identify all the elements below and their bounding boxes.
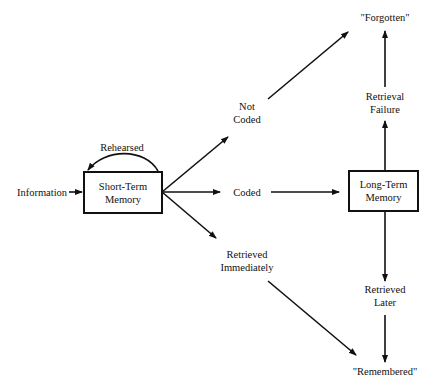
label-rehearsed: Rehearsed xyxy=(100,141,144,154)
retrieved-later-line1: Retrieved xyxy=(365,283,406,296)
node-coded: Coded xyxy=(233,186,260,199)
retrieval-failure-line1: Retrieval xyxy=(366,90,404,103)
arrow-retrieved-immediately-to-remembered xyxy=(268,281,356,355)
retrieved-immediately-line2: Immediately xyxy=(220,261,273,274)
node-remembered: "Remembered" xyxy=(353,365,418,378)
not-coded-line2: Coded xyxy=(233,113,260,126)
node-retrieval-failure: Retrieval Failure xyxy=(366,90,404,116)
stm-line2: Memory xyxy=(99,193,147,206)
node-information: Information xyxy=(17,186,67,199)
arrow-stm-to-not-coded xyxy=(162,137,228,192)
stm-line1: Short-Term xyxy=(99,180,147,193)
node-long-term-memory: Long-Term Memory xyxy=(348,170,419,212)
node-forgotten: "Forgotten" xyxy=(360,11,409,24)
node-retrieved-later: Retrieved Later xyxy=(365,283,406,309)
node-short-term-memory: Short-Term Memory xyxy=(83,171,163,214)
retrieved-later-line2: Later xyxy=(365,296,406,309)
not-coded-line1: Not xyxy=(233,100,260,113)
arrow-rehearsed-loop xyxy=(88,154,158,171)
ltm-line1: Long-Term xyxy=(360,178,408,191)
node-not-coded: Not Coded xyxy=(233,100,260,126)
arrow-stm-to-retrieved-immediately xyxy=(162,192,216,238)
node-retrieved-immediately: Retrieved Immediately xyxy=(220,248,273,274)
ltm-line2: Memory xyxy=(360,191,408,204)
retrieval-failure-line2: Failure xyxy=(366,103,404,116)
arrow-not-coded-to-forgotten xyxy=(268,32,348,99)
retrieved-immediately-line1: Retrieved xyxy=(220,248,273,261)
